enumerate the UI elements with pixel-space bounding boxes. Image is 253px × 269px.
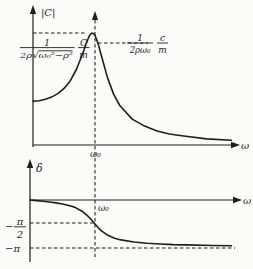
up-arrow-icon (30, 5, 36, 14)
half-pi-numerator: π (16, 216, 24, 227)
peak-formula-numerator: 1 (44, 38, 50, 48)
amplitude-y-axis-label: |C| (41, 7, 55, 19)
minus-half-pi-tick: − π 2 (5, 216, 26, 240)
half-pi-sign: − (5, 221, 13, 232)
omega0-value-formula: 1 2ρω₀ c m (127, 33, 168, 56)
right-arrow-icon (231, 142, 240, 148)
phase-x-axis-label: ω (243, 195, 251, 206)
omega0-formula-denominator: 2ρω₀ (129, 45, 151, 55)
right-arrow-icon (233, 197, 242, 203)
peak-formula-factor-numerator: C (80, 38, 87, 48)
omega0-formula-factor-numerator: c (160, 33, 165, 43)
figure-canvas: |C| ω ω₀ 1 2ρ√ω₀²−ρ² C m 1 2ρ (0, 0, 253, 269)
peak-formula-denominator: 2ρ√ω₀²−ρ² (19, 51, 73, 60)
up-arrow-icon (27, 159, 33, 168)
peak-formula-factor-denominator: m (79, 50, 88, 60)
up-arrow-icon (92, 11, 98, 20)
amplitude-plot: |C| ω ω₀ 1 2ρ√ω₀²−ρ² C m 1 2ρ (19, 5, 249, 257)
phase-y-axis-label: δ (36, 162, 43, 175)
omega0-tick-label-bottom: ω₀ (98, 203, 109, 213)
omega0-tick-label-top: ω₀ (90, 149, 101, 159)
omega0-formula-factor-denominator: m (158, 45, 167, 55)
amplitude-x-axis-label: ω (241, 140, 249, 151)
peak-value-formula: 1 2ρ√ω₀²−ρ² C m (19, 38, 90, 60)
half-pi-denominator: 2 (16, 229, 23, 240)
phase-plot: δ ω ω₀ − π 2 −π (5, 159, 251, 262)
minus-pi-tick: −π (5, 243, 20, 254)
resonance-figure: |C| ω ω₀ 1 2ρ√ω₀²−ρ² C m 1 2ρ (0, 0, 253, 269)
omega0-formula-numerator: 1 (137, 33, 143, 43)
